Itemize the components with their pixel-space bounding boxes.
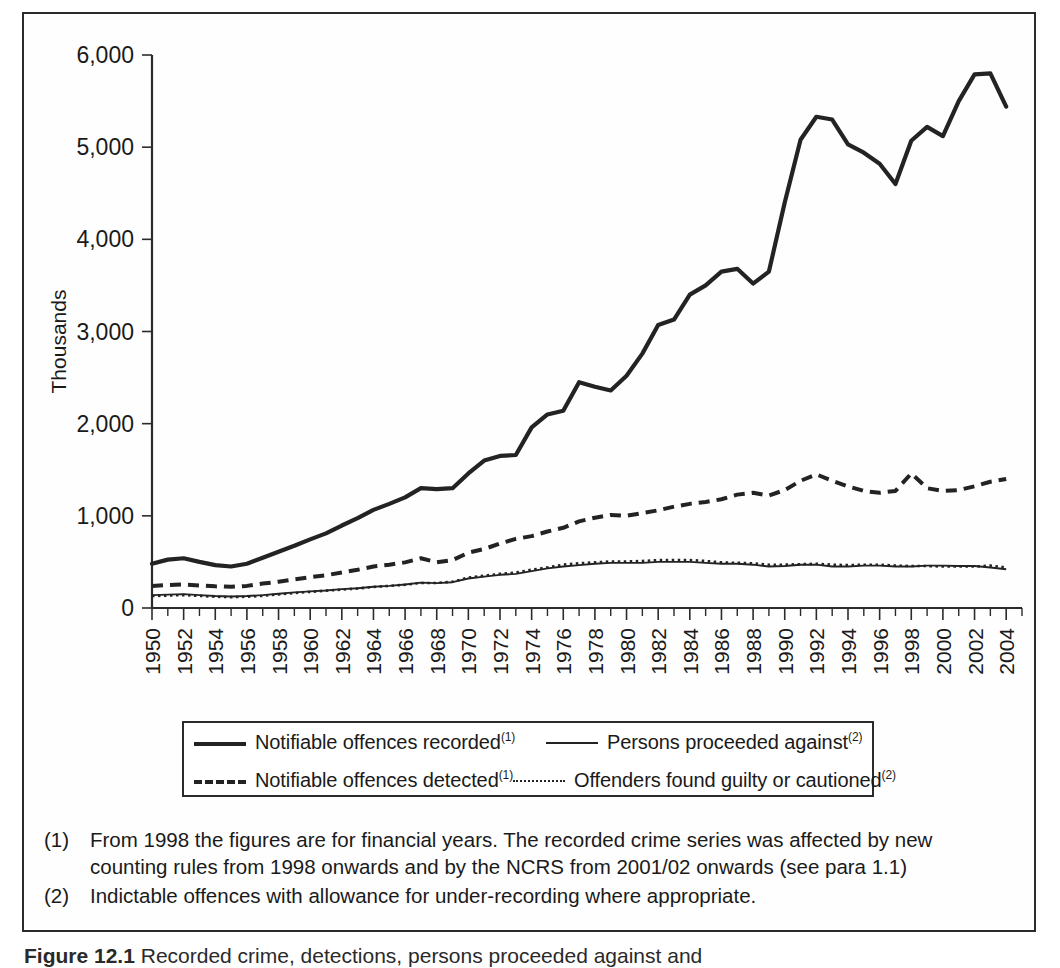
y-tick-label: 4,000	[76, 226, 134, 252]
legend-label-persons-proceeded-against: Persons proceeded against(2)	[607, 730, 862, 754]
x-tick-label: 1994	[837, 628, 860, 675]
y-tick-label: 5,000	[76, 134, 134, 160]
x-tick-label: 1952	[173, 628, 196, 675]
legend-swatch-solid-thin-icon	[546, 735, 598, 749]
x-tick-label: 1956	[236, 628, 259, 675]
series-line-notifiable-offences-detected	[152, 473, 1006, 586]
x-tick-label: 2002	[964, 628, 987, 675]
y-tick-label: 1,000	[76, 503, 134, 529]
legend-swatch-solid-thick-icon	[194, 735, 246, 749]
legend-item-notifiable-offences-detected[interactable]: Notifiable offences detected(1)	[194, 768, 513, 792]
x-tick-label: 1990	[774, 628, 797, 675]
x-tick-label: 1976	[552, 628, 575, 675]
x-tick-label: 1978	[584, 628, 607, 675]
legend-swatch-dotted-icon	[513, 773, 565, 787]
y-tick-label: 6,000	[76, 42, 134, 68]
legend-row-2: Notifiable offences detected(1) Offender…	[184, 761, 872, 799]
series-line-persons-proceeded-against	[152, 562, 1006, 597]
y-tick-label: 3,000	[76, 319, 134, 345]
legend-item-notifiable-offences-recorded[interactable]: Notifiable offences recorded(1)	[194, 730, 546, 754]
x-tick-label: 1968	[426, 628, 449, 675]
x-tick-label: 1982	[647, 628, 670, 675]
x-tick-label: 1988	[742, 628, 765, 675]
x-tick-label: 1986	[710, 628, 733, 675]
y-axis-title: Thousands	[47, 290, 70, 394]
x-tick-label: 1958	[268, 628, 291, 675]
figure-caption: Figure 12.1 Recorded crime, detections, …	[24, 944, 1034, 968]
x-tick-label: 1974	[521, 628, 544, 675]
legend-label-offenders-found-guilty-or-cautioned: Offenders found guilty or cautioned(2)	[574, 768, 896, 792]
x-tick-label: 1964	[362, 628, 385, 675]
y-tick-label: 0	[121, 595, 134, 621]
x-tick-label: 1962	[331, 628, 354, 675]
x-tick-label: 1970	[457, 628, 480, 675]
y-tick-label: 2,000	[76, 411, 134, 437]
x-tick-label: 1972	[489, 628, 512, 675]
footnote-2-text: Indictable offences with allowance for u…	[90, 882, 1004, 909]
figure-footnotes: (1) From 1998 the figures are for financ…	[44, 826, 1004, 911]
legend-label-notifiable-offences-detected: Notifiable offences detected(1)	[255, 768, 513, 792]
figure-caption-text: Recorded crime, detections, persons proc…	[141, 944, 703, 967]
footnote-1-marker: (1)	[44, 826, 90, 853]
x-tick-label: 2004	[995, 628, 1018, 675]
legend-item-offenders-found-guilty-or-cautioned[interactable]: Offenders found guilty or cautioned(2)	[513, 768, 896, 792]
footnote-2: (2) Indictable offences with allowance f…	[44, 882, 1004, 909]
footnote-1-text: From 1998 the figures are for financial …	[90, 826, 1004, 880]
legend-swatch-dashed-icon	[194, 773, 246, 787]
footnote-1: (1) From 1998 the figures are for financ…	[44, 826, 1004, 880]
legend-row-1: Notifiable offences recorded(1) Persons …	[184, 723, 872, 761]
x-tick-label: 2000	[932, 628, 955, 675]
figure-caption-label: Figure 12.1	[24, 944, 135, 967]
x-tick-label: 1954	[204, 628, 227, 675]
x-tick-label: 1966	[394, 628, 417, 675]
legend-item-persons-proceeded-against[interactable]: Persons proceeded against(2)	[546, 730, 862, 754]
x-tick-label: 1980	[616, 628, 639, 675]
x-tick-label: 1992	[805, 628, 828, 675]
chart-legend: Notifiable offences recorded(1) Persons …	[182, 721, 874, 797]
legend-label-notifiable-offences-recorded: Notifiable offences recorded(1)	[255, 730, 515, 754]
x-tick-label: 1950	[141, 628, 164, 675]
footnote-2-marker: (2)	[44, 882, 90, 909]
x-tick-label: 1996	[869, 628, 892, 675]
x-tick-label: 1960	[299, 628, 322, 675]
x-tick-label: 1984	[679, 628, 702, 675]
x-tick-label: 1998	[900, 628, 923, 675]
